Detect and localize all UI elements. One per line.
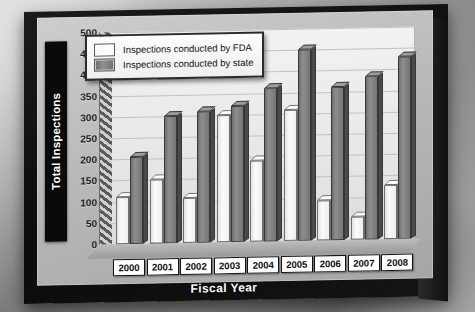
legend-swatch-state-icon <box>94 58 115 71</box>
bar-front-face <box>331 87 344 240</box>
chart-panel: Total Inspections 0501001502002503003504… <box>37 10 433 286</box>
x-tick-2006: 2006 <box>314 255 346 273</box>
bar-front-face <box>183 198 196 243</box>
legend-label-state: Inspections conducted by state <box>123 57 253 71</box>
bar-2003-fda <box>217 115 230 242</box>
y-tick-200: 200 <box>80 154 97 165</box>
bar-side-face <box>378 73 383 240</box>
bar-2002-fda <box>183 198 196 243</box>
bar-2000-state <box>130 157 143 244</box>
bar-2001-state <box>164 116 177 243</box>
y-tick-150: 150 <box>80 176 97 187</box>
legend-label-fda: Inspections conducted by FDA <box>123 42 252 55</box>
y-tick-100: 100 <box>80 197 97 208</box>
bar-front-face <box>384 185 397 240</box>
x-tick-2003: 2003 <box>214 257 246 275</box>
x-tick-2001: 2001 <box>147 258 179 276</box>
bar-2002-state <box>197 111 210 243</box>
y-tick-350: 350 <box>80 91 97 102</box>
bar-front-face <box>231 106 244 242</box>
bar-front-face <box>150 180 163 244</box>
bar-2005-state <box>298 50 311 241</box>
y-axis-title-band: Total Inspections <box>45 41 67 241</box>
bar-2008-fda <box>384 185 397 240</box>
bar-2000-fda <box>116 197 129 244</box>
bar-front-face <box>197 111 210 243</box>
bar-front-face <box>116 197 129 244</box>
bar-2003-state <box>231 106 244 242</box>
bar-front-face <box>398 56 411 239</box>
bar-2006-state <box>331 87 344 240</box>
bar-2005-fda <box>284 109 297 241</box>
bar-side-face <box>344 84 349 240</box>
legend-item-state: Inspections conducted by state <box>94 56 253 72</box>
bar-side-face <box>277 85 282 241</box>
x-tick-2000: 2000 <box>113 259 145 277</box>
bar-2008-state <box>398 56 411 239</box>
bar-front-face <box>298 50 311 241</box>
y-tick-300: 300 <box>80 112 97 123</box>
x-tick-2008: 2008 <box>381 254 413 272</box>
bar-2004-fda <box>250 161 263 242</box>
bar-front-face <box>351 216 364 240</box>
bar-front-face <box>365 76 378 239</box>
y-tick-50: 50 <box>86 218 97 229</box>
y-tick-250: 250 <box>80 133 97 144</box>
bar-front-face <box>217 115 230 242</box>
bar-2007-state <box>365 76 378 239</box>
bar-2001-fda <box>150 180 163 244</box>
bar-front-face <box>250 161 263 242</box>
bar-front-face <box>317 200 330 241</box>
bar-side-face <box>143 153 148 243</box>
bar-front-face <box>130 157 143 244</box>
bar-2007-fda <box>351 216 364 240</box>
x-tick-2005: 2005 <box>281 256 313 274</box>
bar-side-face <box>210 108 215 243</box>
bar-front-face <box>284 109 297 241</box>
bar-side-face <box>177 112 182 243</box>
x-tick-2004: 2004 <box>247 256 279 274</box>
x-tick-2007: 2007 <box>348 254 380 272</box>
bar-side-face <box>311 46 316 240</box>
bar-side-face <box>411 53 416 239</box>
chart-legend: Inspections conducted by FDA Inspections… <box>85 31 264 80</box>
bar-side-face <box>244 103 249 242</box>
x-tick-2002: 2002 <box>180 257 212 275</box>
legend-item-fda: Inspections conducted by FDA <box>94 41 253 57</box>
chart-image: Total Inspections 0501001502002503003504… <box>0 0 475 312</box>
bar-2004-state <box>264 89 277 242</box>
legend-swatch-fda-icon <box>94 43 115 56</box>
y-axis-title: Total Inspections <box>50 93 62 190</box>
bar-front-face <box>264 89 277 242</box>
bar-2006-fda <box>317 200 330 241</box>
bar-front-face <box>164 116 177 243</box>
